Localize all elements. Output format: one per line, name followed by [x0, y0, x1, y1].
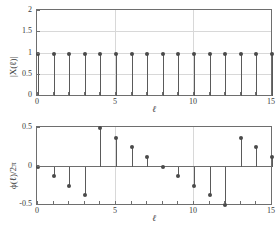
y-tick — [37, 127, 40, 128]
data-point-marker — [98, 52, 102, 56]
data-point-marker — [67, 184, 71, 188]
data-point-marker — [114, 52, 118, 56]
x-tick — [131, 201, 132, 204]
x-tick — [53, 201, 54, 204]
data-point-marker — [161, 165, 165, 169]
x-tick — [162, 201, 163, 204]
x-tick — [115, 92, 116, 95]
x-tick — [224, 92, 225, 95]
data-point-marker — [208, 52, 212, 56]
x-tick-label: 15 — [267, 98, 275, 106]
stem-line — [69, 54, 70, 97]
data-point-marker — [192, 52, 196, 56]
x-tick — [271, 201, 272, 204]
data-point-marker — [83, 193, 87, 197]
y-tick-label: 0 — [0, 91, 32, 99]
y-tick — [37, 31, 40, 32]
x-tick — [193, 92, 194, 95]
x-tick — [240, 92, 241, 95]
x-tick — [209, 92, 210, 95]
x-tick — [68, 92, 69, 95]
data-point-marker — [161, 52, 165, 56]
x-tick — [84, 92, 85, 95]
stem-line — [147, 54, 148, 97]
x-tick — [255, 92, 256, 95]
x-tick — [68, 201, 69, 204]
x-tick — [162, 92, 163, 95]
y-tick — [37, 166, 40, 167]
stem-line — [100, 54, 101, 97]
x-axis-label-phase: ℓ — [152, 213, 156, 223]
y-tick — [37, 53, 40, 54]
stem-line — [163, 54, 164, 97]
x-tick — [177, 201, 178, 204]
x-tick — [115, 201, 116, 204]
x-tick — [99, 201, 100, 204]
x-tick — [131, 92, 132, 95]
x-tick — [84, 201, 85, 204]
x-tick-label: 5 — [113, 98, 117, 106]
zero-axis-line-phase — [37, 166, 271, 167]
x-tick-label: 0 — [35, 207, 39, 215]
gridline-magnitude-h — [37, 74, 271, 75]
x-tick — [271, 92, 272, 95]
y-tick — [37, 95, 40, 96]
y-axis-label-magnitude: |X(ℓ)| — [8, 57, 18, 77]
stem-line — [241, 138, 242, 167]
data-point-marker — [270, 155, 274, 159]
y-tick — [37, 74, 40, 75]
stem-line — [256, 147, 257, 166]
data-point-marker — [130, 145, 134, 149]
stem-line — [38, 54, 39, 97]
stem-line — [116, 54, 117, 97]
x-tick — [209, 201, 210, 204]
data-point-marker — [254, 145, 258, 149]
stem-line — [132, 147, 133, 166]
stem-line — [178, 54, 179, 97]
plot-area-magnitude — [36, 9, 272, 96]
stem-line — [100, 128, 101, 167]
data-point-marker — [239, 136, 243, 140]
x-tick — [177, 92, 178, 95]
gridline-magnitude-h — [37, 53, 271, 54]
x-tick-label: 10 — [189, 98, 197, 106]
data-point-marker — [176, 52, 180, 56]
stem-line — [272, 54, 273, 97]
x-tick-label: 0 — [35, 98, 39, 106]
data-point-marker — [114, 136, 118, 140]
y-tick-label: 1 — [0, 49, 32, 57]
x-tick-label: 10 — [189, 207, 197, 215]
stem-line — [54, 54, 55, 97]
data-point-marker — [176, 174, 180, 178]
stem-line — [132, 54, 133, 97]
stem-line — [225, 54, 226, 97]
x-tick — [146, 92, 147, 95]
x-tick — [224, 201, 225, 204]
stem-line — [194, 54, 195, 97]
stem-line — [210, 167, 211, 196]
data-point-marker — [52, 174, 56, 178]
stem-line — [225, 167, 226, 206]
stem-line — [241, 54, 242, 97]
figure-stem-plots: 051015 00.511.52 ℓ |X(ℓ)| 051015 -0.500.… — [0, 0, 277, 227]
x-tick — [240, 201, 241, 204]
data-point-marker — [239, 52, 243, 56]
data-point-marker — [223, 52, 227, 56]
data-point-marker — [145, 155, 149, 159]
stem-line — [85, 167, 86, 196]
data-point-marker — [83, 52, 87, 56]
x-tick — [255, 201, 256, 204]
x-tick — [193, 201, 194, 204]
x-axis-label-magnitude: ℓ — [152, 104, 156, 114]
x-tick-label: 15 — [267, 207, 275, 215]
x-tick — [146, 201, 147, 204]
data-point-marker — [130, 52, 134, 56]
stem-line — [116, 138, 117, 167]
y-tick — [37, 204, 40, 205]
data-point-marker — [208, 193, 212, 197]
gridline-magnitude-h — [37, 31, 271, 32]
data-point-marker — [192, 184, 196, 188]
data-point-marker — [67, 52, 71, 56]
stem-line — [210, 54, 211, 97]
data-point-marker — [270, 52, 274, 56]
